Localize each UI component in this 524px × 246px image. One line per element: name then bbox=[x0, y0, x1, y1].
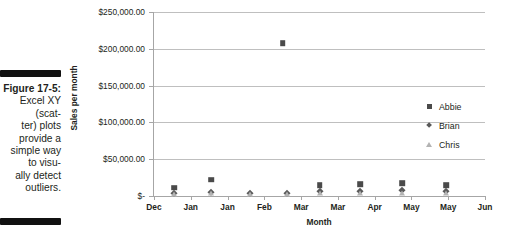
caption-line-1: (scat- bbox=[36, 108, 61, 119]
x-axis-tick bbox=[264, 196, 265, 200]
caption-line-3: provide a bbox=[19, 133, 61, 144]
y-axis-tick-label: $- bbox=[138, 191, 145, 201]
x-axis-tick-label: Dec bbox=[146, 202, 161, 212]
data-point-chris[interactable] bbox=[284, 192, 290, 197]
caption-rule-bottom bbox=[0, 218, 61, 225]
x-axis-tick-label: Jan bbox=[220, 202, 234, 212]
gridline bbox=[154, 159, 485, 160]
x-axis-tick-label: Jun bbox=[478, 202, 493, 212]
figure-label: Figure 17-5: bbox=[3, 83, 61, 94]
caption-rule-top bbox=[0, 70, 61, 77]
data-point-abbie[interactable] bbox=[280, 40, 286, 46]
x-axis-tick bbox=[154, 196, 155, 200]
triangle-marker-icon bbox=[424, 142, 434, 147]
caption-line-4: simple way bbox=[11, 145, 61, 156]
y-axis-tick-label: $50,000.00 bbox=[103, 154, 145, 164]
x-axis-tick bbox=[228, 196, 229, 200]
data-point-chris[interactable] bbox=[399, 190, 405, 195]
gridline bbox=[154, 49, 485, 50]
data-point-abbie[interactable] bbox=[399, 181, 405, 187]
x-axis-tick bbox=[375, 196, 376, 200]
caption-text: Figure 17-5: Excel XY (scat- ter) plots … bbox=[0, 83, 61, 195]
x-axis-title: Month bbox=[306, 217, 331, 227]
y-axis-title: Sales per month bbox=[69, 65, 79, 130]
data-point-chris[interactable] bbox=[443, 191, 449, 196]
gridline bbox=[154, 12, 485, 13]
legend-label-abbie: Abbie bbox=[439, 102, 462, 112]
x-axis-tick-label: May bbox=[440, 202, 456, 212]
x-axis-tick bbox=[485, 196, 486, 200]
y-axis-tick-label: $150,000.00 bbox=[98, 81, 145, 91]
legend-label-brian: Brian bbox=[439, 121, 460, 131]
legend-label-chris: Chris bbox=[439, 140, 460, 150]
x-axis-tick-label: Mar bbox=[294, 202, 309, 212]
x-axis-tick-label: Jan bbox=[184, 202, 198, 212]
figure-page: Figure 17-5: Excel XY (scat- ter) plots … bbox=[0, 0, 524, 246]
chart-legend: Abbie Brian Chris bbox=[424, 97, 516, 154]
data-point-chris[interactable] bbox=[357, 191, 363, 196]
data-point-chris[interactable] bbox=[317, 190, 323, 195]
square-marker-icon bbox=[424, 104, 434, 109]
x-axis-tick-label: Mar bbox=[330, 202, 345, 212]
scatter-chart: Sales per month Month $-$50,000.00$100,0… bbox=[68, 2, 524, 234]
caption-line-7: outliers. bbox=[25, 182, 61, 193]
caption-line-6: ally detect bbox=[15, 170, 61, 181]
legend-item-brian[interactable]: Brian bbox=[424, 116, 516, 135]
y-axis-tick-label: $200,000.00 bbox=[98, 44, 145, 54]
legend-item-abbie[interactable]: Abbie bbox=[424, 97, 516, 116]
y-axis-tick-label: $100,000.00 bbox=[98, 117, 145, 127]
y-axis-tick-label: $250,000.00 bbox=[98, 7, 145, 17]
x-axis-tick-label: Feb bbox=[257, 202, 272, 212]
gridline bbox=[154, 86, 485, 87]
x-axis-tick bbox=[411, 196, 412, 200]
x-axis-tick bbox=[448, 196, 449, 200]
caption-line-2: ter) plots bbox=[21, 120, 61, 131]
x-axis-tick-label: Apr bbox=[367, 202, 381, 212]
x-axis-tick-label: May bbox=[403, 202, 419, 212]
data-point-chris[interactable] bbox=[247, 191, 253, 196]
data-point-abbie[interactable] bbox=[208, 177, 214, 183]
caption-line-5: to visu- bbox=[28, 157, 61, 168]
data-point-chris[interactable] bbox=[208, 191, 214, 196]
diamond-marker-icon bbox=[424, 123, 434, 127]
x-axis-tick bbox=[301, 196, 302, 200]
x-axis-tick bbox=[338, 196, 339, 200]
figure-caption-block: Figure 17-5: Excel XY (scat- ter) plots … bbox=[0, 70, 64, 195]
data-point-abbie[interactable] bbox=[357, 181, 363, 187]
x-axis-tick bbox=[191, 196, 192, 200]
caption-line-0: Excel XY bbox=[20, 95, 61, 106]
legend-item-chris[interactable]: Chris bbox=[424, 135, 516, 154]
data-point-chris[interactable] bbox=[171, 192, 177, 197]
